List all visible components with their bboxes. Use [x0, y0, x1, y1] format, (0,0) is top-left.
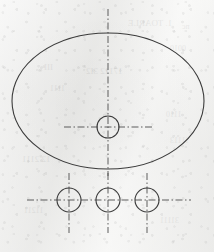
- technical-drawing-canvas: [0, 0, 214, 252]
- drawing-sheet: 1. TOARLEnc0010III17112 3I21111111011113…: [0, 0, 214, 252]
- centerline-group: [27, 9, 191, 233]
